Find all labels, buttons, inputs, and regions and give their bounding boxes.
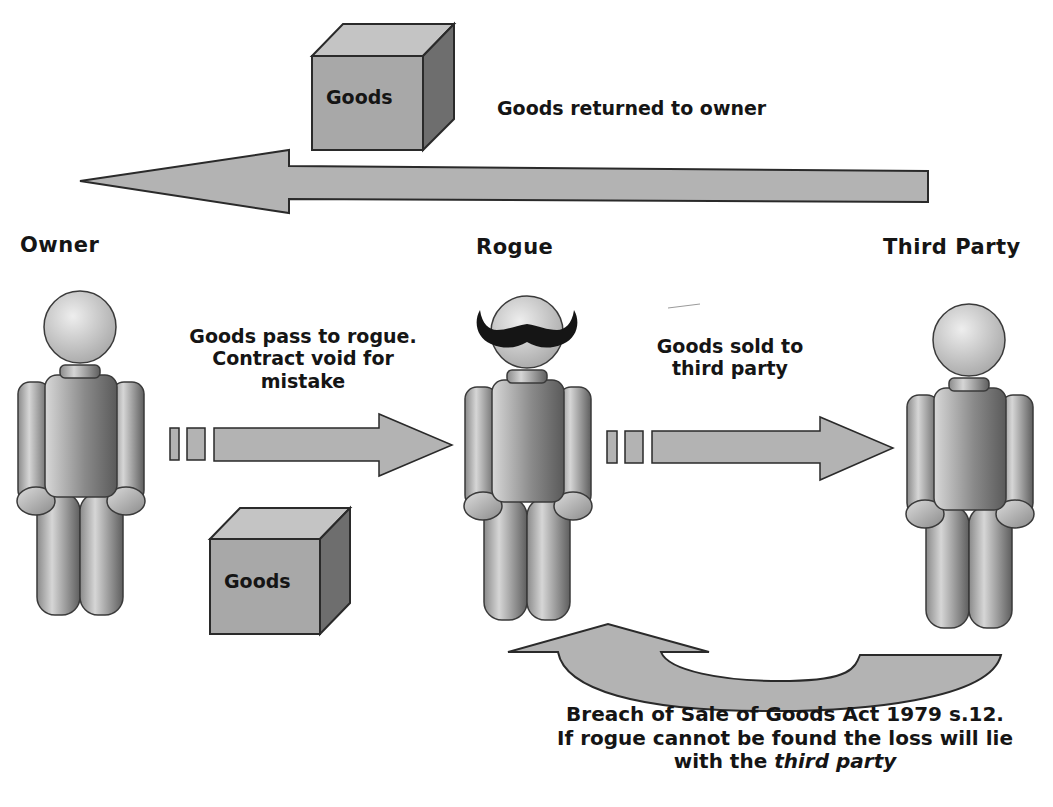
goods-pass-to-rogue-arrow — [170, 414, 452, 476]
breach-caption: Breach of Sale of Goods Act 1979 s.12. I… — [525, 703, 1045, 774]
caption-line: Breach of Sale of Goods Act 1979 s.12. — [525, 703, 1045, 727]
diagram-canvas — [0, 0, 1053, 807]
caption-line: third party — [640, 357, 820, 379]
third-party-label: Third Party — [883, 235, 1021, 260]
caption-line: If rogue cannot be found the loss will l… — [525, 727, 1045, 751]
rogue-figure-icon — [464, 296, 592, 620]
caption-text: with the — [674, 749, 774, 773]
third-party-figure-icon — [906, 304, 1034, 628]
caption-emphasis: third party — [774, 749, 896, 773]
goods-returned-label: Goods returned to owner — [497, 97, 766, 119]
goods-sold-arrow — [607, 417, 893, 480]
owner-figure-icon — [17, 291, 145, 615]
goods-box-top-label: Goods — [326, 86, 393, 108]
goods-returned-arrow — [80, 150, 928, 213]
caption-line: Goods pass to rogue. — [168, 325, 438, 347]
owner-label: Owner — [20, 233, 99, 258]
goods-box-bottom-label: Goods — [224, 570, 291, 592]
goods-sold-caption: Goods sold to third party — [640, 335, 820, 380]
rogue-label: Rogue — [476, 235, 553, 260]
caption-line: Goods sold to — [640, 335, 820, 357]
breach-curved-arrow — [508, 624, 1001, 711]
goods-pass-to-rogue-caption: Goods pass to rogue. Contract void for m… — [168, 325, 438, 392]
stray-mark — [668, 304, 700, 308]
caption-line: Contract void for — [168, 347, 438, 369]
caption-line: with the third party — [525, 750, 1045, 774]
caption-line: mistake — [168, 370, 438, 392]
